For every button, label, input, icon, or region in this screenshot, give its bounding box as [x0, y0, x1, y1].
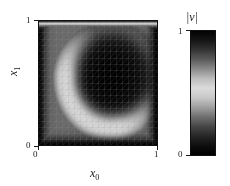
- xtick-label-0: 0: [33, 150, 38, 159]
- colorbar: [190, 30, 216, 156]
- velocity-field-axes: [38, 20, 158, 146]
- ytick-mark-1: [34, 20, 38, 21]
- colorbar-tick-mark-low: [186, 155, 190, 156]
- ytick-mark-0: [34, 146, 38, 147]
- colorbar-title-right-bar: |: [195, 10, 198, 24]
- x-axis-title: x0: [90, 166, 99, 182]
- colorbar-tick-label-low: 0: [178, 150, 183, 159]
- xtick-label-1: 1: [154, 150, 159, 159]
- y-axis-title: x1: [6, 67, 22, 76]
- colorbar-tick-mark-high: [186, 30, 190, 31]
- y-axis-title-sub: 1: [13, 67, 22, 71]
- y-axis-title-base: x: [6, 71, 20, 76]
- ytick-label-0: 0: [26, 141, 31, 150]
- figure-root: 0 1 0 1 x1 x0 |v| 1 0: [0, 0, 230, 186]
- velocity-field-heatmap: [38, 20, 158, 146]
- colorbar-gradient: [190, 30, 216, 156]
- x-axis-title-sub: 0: [95, 173, 99, 182]
- colorbar-tick-label-high: 1: [178, 27, 183, 36]
- ytick-label-1: 1: [26, 16, 31, 25]
- colorbar-title: |v|: [186, 10, 198, 25]
- xtick-mark-0: [38, 146, 39, 150]
